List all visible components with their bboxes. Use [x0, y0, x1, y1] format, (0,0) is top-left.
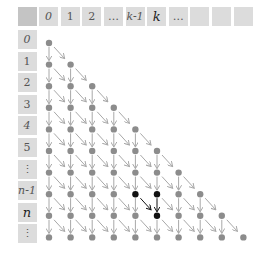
diagonal-arrow-icon — [76, 155, 87, 167]
highlighted-node — [154, 191, 160, 197]
diagonal-arrow-icon — [162, 177, 173, 189]
diagonal-arrow-icon — [76, 112, 87, 124]
node — [46, 83, 52, 89]
node — [154, 169, 160, 175]
diagonal-arrow-icon — [54, 112, 65, 124]
node — [111, 191, 117, 197]
diagonal-arrow-icon — [76, 198, 87, 210]
node — [219, 213, 225, 219]
column-header-cell: … — [104, 7, 123, 26]
corner-cell — [18, 7, 37, 26]
node — [175, 213, 181, 219]
diagonal-arrow-icon — [76, 133, 87, 145]
diagonal-arrow-icon — [119, 220, 130, 232]
diagonal-arrow-icon — [54, 155, 65, 167]
diagonal-arrow-icon — [140, 177, 151, 189]
node — [111, 234, 117, 240]
diagonal-arrow-icon — [119, 112, 130, 124]
node — [89, 213, 95, 219]
node — [89, 169, 95, 175]
node — [46, 213, 52, 219]
diagonal-arrow-icon — [184, 177, 195, 189]
node — [197, 191, 203, 197]
node — [175, 169, 181, 175]
diagonal-arrow-icon — [97, 155, 108, 167]
row-label-cell: 5 — [18, 138, 37, 157]
diagonal-arrow-icon — [54, 177, 65, 189]
node — [67, 213, 73, 219]
diagonal-arrow-icon — [97, 198, 108, 210]
diagonal-arrow-icon — [54, 198, 65, 210]
diagonal-arrow-icon — [76, 177, 87, 189]
node — [132, 213, 138, 219]
diagonal-arrow-icon — [184, 220, 195, 232]
diagonal-arrow-icon — [76, 69, 87, 81]
diagonal-arrow-icon — [97, 177, 108, 189]
diagonal-arrow-icon — [76, 90, 87, 102]
node — [111, 148, 117, 154]
node — [46, 169, 52, 175]
diagonal-arrow-icon — [97, 90, 108, 102]
node — [154, 148, 160, 154]
node — [197, 213, 203, 219]
diagonal-arrow-icon — [119, 155, 130, 167]
node — [67, 105, 73, 111]
node — [46, 40, 52, 46]
node — [197, 234, 203, 240]
node — [89, 191, 95, 197]
diagonal-arrow-icon — [205, 198, 216, 210]
diagonal-arrow-icon — [97, 220, 108, 232]
node — [132, 148, 138, 154]
row-label-cell: 4 — [18, 116, 37, 135]
row-label-cell: 3 — [18, 95, 37, 114]
diagonal-arrow-icon — [162, 198, 173, 210]
node — [132, 126, 138, 132]
node — [67, 148, 73, 154]
row-label-cell: 1 — [18, 52, 37, 71]
row-label-cell: ⋮ — [18, 160, 37, 179]
diagonal-arrow-icon — [140, 198, 151, 210]
diagonal-arrow-icon — [119, 177, 130, 189]
node — [111, 213, 117, 219]
row-label-cell: 0 — [18, 30, 37, 49]
node — [67, 169, 73, 175]
column-header-cell: 0 — [39, 7, 58, 26]
diagonal-arrow-icon — [54, 69, 65, 81]
node — [175, 234, 181, 240]
node — [132, 234, 138, 240]
diagonal-arrow-icon — [162, 220, 173, 232]
node — [89, 105, 95, 111]
node — [175, 191, 181, 197]
diagonal-arrow-icon — [140, 133, 151, 145]
diagonal-arrow-icon — [119, 133, 130, 145]
column-header-cell — [234, 7, 253, 26]
node — [240, 234, 246, 240]
diagonal-arrow-icon — [54, 90, 65, 102]
node — [89, 83, 95, 89]
node — [111, 105, 117, 111]
diagonal-arrow-icon — [162, 155, 173, 167]
node — [67, 61, 73, 67]
diagonal-arrow-icon — [140, 155, 151, 167]
node — [67, 234, 73, 240]
node — [46, 234, 52, 240]
diagonal-arrow-icon — [54, 47, 65, 59]
row-label-cell: n-1 — [18, 181, 37, 200]
diagonal-arrow-icon — [119, 198, 130, 210]
diagonal-arrow-icon — [184, 198, 195, 210]
diagonal-arrow-icon — [54, 220, 65, 232]
node — [46, 126, 52, 132]
node — [46, 191, 52, 197]
node — [111, 126, 117, 132]
node — [132, 169, 138, 175]
highlighted-node — [132, 191, 138, 197]
row-label-cell: ⋮ — [18, 224, 37, 243]
diagonal-arrow-icon — [227, 220, 238, 232]
diagonal-arrow-icon — [54, 133, 65, 145]
row-label-cell: 2 — [18, 73, 37, 92]
column-header-cell: k — [147, 7, 166, 26]
node — [67, 83, 73, 89]
diagonal-arrow-icon — [97, 133, 108, 145]
column-header-cell: 1 — [61, 7, 80, 26]
pascal-triangle-graph — [0, 0, 258, 260]
